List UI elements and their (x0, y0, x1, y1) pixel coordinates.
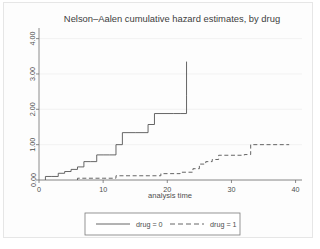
gridlines (39, 39, 302, 180)
chart-figure: 0.001.002.003.004.00 010203040 Nelson–Aa… (0, 0, 320, 249)
y-tick-label: 2.00 (29, 102, 38, 116)
x-tick-label: 0 (37, 185, 41, 194)
legend-label-drug-1: drug = 1 (210, 220, 237, 229)
legend-label-drug-0: drug = 0 (136, 220, 163, 229)
y-tick-label: 1.00 (29, 138, 38, 152)
y-axis-tick-labels: 0.001.002.003.004.00 (29, 32, 38, 187)
x-tick-label: 40 (292, 185, 300, 194)
data-series-group (45, 62, 289, 180)
chart-legend: drug = 0 drug = 1 (85, 213, 240, 235)
series-line-drug-0 (45, 62, 186, 180)
series-line-drug-1 (77, 145, 289, 180)
y-tick-label: 4.00 (29, 32, 38, 46)
x-tick-label: 30 (227, 185, 235, 194)
chart-title: Nelson–Aalen cumulative hazard estimates… (64, 13, 280, 24)
x-tick-label: 10 (99, 185, 107, 194)
y-tick-label: 3.00 (29, 67, 38, 81)
x-axis-title: analysis time (148, 191, 192, 200)
nelson-aalen-chart: 0.001.002.003.004.00 010203040 Nelson–Aa… (0, 0, 320, 249)
